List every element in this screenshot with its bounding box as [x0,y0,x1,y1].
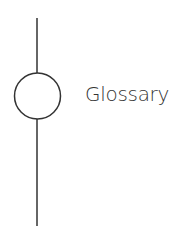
timeline-diagram [0,0,188,246]
node-circle-icon[interactable] [15,73,61,119]
glossary-label[interactable]: Glossary [85,82,169,106]
